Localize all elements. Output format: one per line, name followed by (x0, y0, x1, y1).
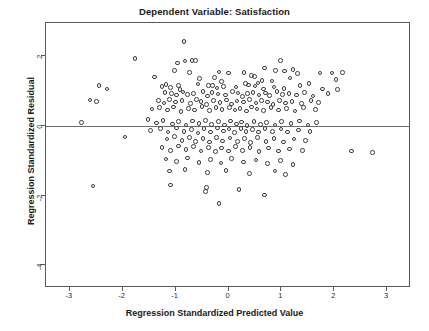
y-axis-title: Regression Standardized Residual (26, 51, 36, 251)
data-point (185, 156, 190, 161)
data-point (226, 71, 231, 76)
data-point (246, 83, 251, 88)
data-point (173, 100, 178, 105)
data-point (340, 70, 345, 75)
plot-area (45, 22, 410, 287)
data-point (287, 147, 292, 152)
data-point (247, 97, 252, 102)
data-point (172, 134, 177, 139)
data-point (208, 130, 213, 135)
data-point (295, 71, 300, 76)
data-point (260, 78, 265, 83)
x-axis-tick-label: 1 (265, 291, 295, 300)
data-point (309, 98, 314, 103)
data-point (284, 106, 289, 111)
data-point (330, 71, 335, 76)
data-point (285, 130, 290, 135)
data-point (180, 138, 185, 143)
data-point (206, 145, 211, 150)
data-point (163, 90, 168, 95)
data-point (276, 149, 281, 154)
data-point (171, 105, 176, 110)
data-point (249, 105, 254, 110)
data-point (180, 98, 185, 103)
data-point (267, 93, 272, 98)
data-point (282, 86, 287, 91)
data-point (314, 120, 319, 125)
data-point (204, 102, 209, 107)
data-point (298, 83, 303, 88)
data-point (242, 136, 247, 141)
data-point (334, 77, 339, 82)
data-point (280, 92, 285, 97)
data-point (148, 128, 153, 133)
x-axis-tick-label: 3 (371, 291, 401, 300)
data-point (265, 100, 270, 105)
data-point (202, 126, 207, 131)
data-point (91, 184, 96, 189)
data-point (290, 99, 295, 104)
data-point (221, 129, 226, 134)
data-point (235, 99, 240, 104)
scatterplot-figure: Dependent Variable: Satisfaction -3-2-10… (0, 0, 429, 331)
data-point (238, 106, 243, 111)
data-point (239, 126, 244, 131)
data-point (273, 169, 278, 174)
data-point (167, 169, 172, 174)
data-point (88, 98, 93, 103)
data-point (221, 84, 226, 89)
data-point (227, 105, 232, 110)
data-point (216, 119, 221, 124)
data-point (184, 123, 189, 128)
data-point (219, 146, 224, 151)
data-point (240, 148, 245, 153)
data-point (192, 108, 197, 113)
data-point (235, 139, 240, 144)
data-point (197, 76, 202, 81)
data-point (133, 56, 138, 61)
data-point (189, 127, 194, 132)
data-point (165, 137, 170, 142)
data-point (279, 127, 284, 132)
data-point (197, 160, 202, 165)
data-point (190, 119, 195, 124)
data-point (217, 201, 222, 206)
data-point (254, 158, 259, 163)
data-point (211, 98, 216, 103)
data-point (245, 91, 250, 96)
data-point (300, 148, 305, 153)
data-point (166, 130, 171, 135)
data-point (273, 68, 278, 73)
data-point (187, 135, 192, 140)
scatter-points-layer (46, 23, 409, 286)
data-point (176, 144, 181, 149)
data-point (162, 101, 167, 106)
data-point (187, 70, 192, 75)
data-point (208, 157, 213, 162)
data-point (254, 101, 259, 106)
data-point (335, 87, 340, 92)
data-point (257, 149, 262, 154)
data-point (276, 108, 281, 113)
data-point (248, 140, 253, 145)
data-point (307, 81, 312, 86)
data-point (165, 108, 170, 113)
data-point (191, 91, 196, 96)
data-point (349, 149, 354, 154)
data-point (174, 93, 179, 98)
data-point (154, 121, 159, 126)
data-point (237, 187, 242, 192)
data-point (193, 139, 198, 144)
data-point (296, 128, 301, 133)
data-point (168, 148, 173, 153)
data-point (191, 144, 196, 149)
chart-title: Dependent Variable: Satisfaction (0, 6, 429, 17)
data-point (205, 94, 210, 99)
data-point (306, 123, 311, 128)
data-point (278, 58, 283, 63)
data-point (301, 105, 306, 110)
data-point (269, 105, 274, 110)
data-point (193, 58, 198, 63)
data-point (205, 170, 210, 175)
data-point (239, 120, 244, 125)
